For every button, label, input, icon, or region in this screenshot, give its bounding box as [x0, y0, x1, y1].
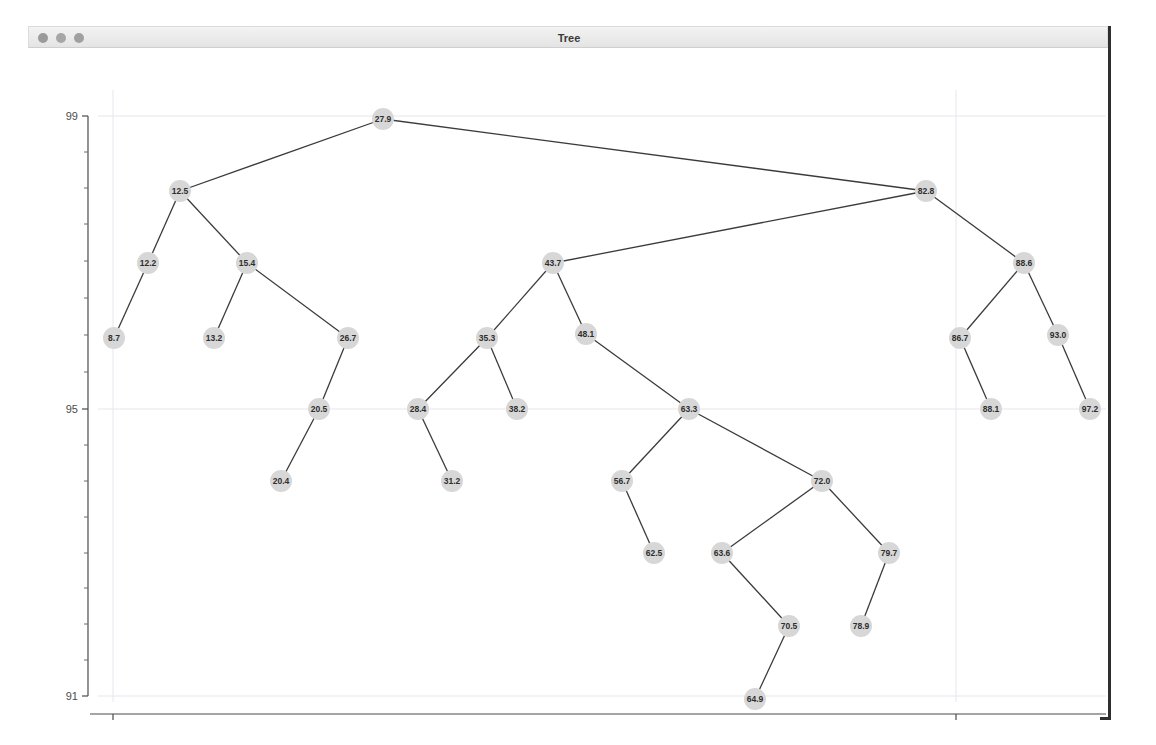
- tree-node[interactable]: 78.9: [850, 615, 872, 637]
- tree-edge: [180, 191, 247, 263]
- node-circle[interactable]: [337, 327, 359, 349]
- tree-node[interactable]: 93.0: [1047, 324, 1069, 346]
- node-circle[interactable]: [744, 688, 766, 710]
- tree-node[interactable]: 88.6: [1013, 252, 1035, 274]
- tree-node[interactable]: 35.3: [476, 327, 498, 349]
- axes: [82, 116, 1106, 720]
- tree-node[interactable]: 86.7: [949, 327, 971, 349]
- tree-edge: [622, 481, 654, 553]
- node-circle[interactable]: [236, 252, 258, 274]
- node-circle[interactable]: [1079, 398, 1101, 420]
- tree-node[interactable]: 28.4: [407, 398, 429, 420]
- tree-edge: [281, 409, 319, 481]
- tree-node[interactable]: 20.4: [270, 470, 292, 492]
- tree-edge: [822, 481, 889, 553]
- tree-node[interactable]: 56.7: [611, 470, 633, 492]
- tree-edge: [114, 263, 148, 338]
- window-border-foot: [1100, 717, 1111, 720]
- tree-node[interactable]: 15.4: [236, 252, 258, 274]
- tree-node[interactable]: 13.2: [203, 327, 225, 349]
- tree-edge: [418, 409, 452, 481]
- tree-node[interactable]: 43.7: [542, 252, 564, 274]
- tree-node[interactable]: 38.2: [506, 398, 528, 420]
- tree-node[interactable]: 62.5: [643, 542, 665, 564]
- tree-edge: [1058, 335, 1090, 409]
- tree-edge: [861, 553, 889, 626]
- node-circle[interactable]: [778, 615, 800, 637]
- tree-node[interactable]: 72.0: [811, 470, 833, 492]
- tree-canvas: 9995910.0025.00 27.912.582.812.215.443.7…: [28, 48, 1110, 720]
- tree-node[interactable]: 31.2: [441, 470, 463, 492]
- tree-node[interactable]: 8.7: [103, 327, 125, 349]
- tree-node[interactable]: 79.7: [878, 542, 900, 564]
- tree-node[interactable]: 70.5: [778, 615, 800, 637]
- tree-edge: [622, 409, 689, 481]
- node-circle[interactable]: [103, 327, 125, 349]
- node-circle[interactable]: [811, 470, 833, 492]
- tree-edge: [689, 409, 822, 481]
- node-circle[interactable]: [678, 398, 700, 420]
- tree-edge: [553, 263, 586, 334]
- tree-edge: [722, 553, 789, 626]
- node-circle[interactable]: [611, 470, 633, 492]
- node-circle[interactable]: [850, 615, 872, 637]
- node-circle[interactable]: [169, 180, 191, 202]
- node-circle[interactable]: [1013, 252, 1035, 274]
- node-circle[interactable]: [137, 252, 159, 274]
- tree-node[interactable]: 64.9: [744, 688, 766, 710]
- tree-node[interactable]: 82.8: [915, 180, 937, 202]
- node-circle[interactable]: [441, 470, 463, 492]
- tree-window: Tree 9995910.0025.00 27.912.582.812.215.…: [28, 26, 1110, 720]
- node-circle[interactable]: [643, 542, 665, 564]
- window-title: Tree: [29, 27, 1109, 49]
- tree-edge: [722, 481, 822, 553]
- tree-node[interactable]: 63.6: [711, 542, 733, 564]
- tree-edge: [553, 191, 926, 263]
- node-circle[interactable]: [949, 327, 971, 349]
- gridlines: [98, 90, 1106, 702]
- tree-node[interactable]: 20.5: [308, 398, 330, 420]
- node-circle[interactable]: [308, 398, 330, 420]
- node-circle[interactable]: [542, 252, 564, 274]
- node-circle[interactable]: [575, 323, 597, 345]
- tree-node[interactable]: 12.5: [169, 180, 191, 202]
- window-right-border: [1108, 26, 1111, 720]
- node-circle[interactable]: [711, 542, 733, 564]
- tree-edge: [1024, 263, 1058, 335]
- window-title-bar[interactable]: Tree: [28, 26, 1108, 48]
- tree-node[interactable]: 97.2: [1079, 398, 1101, 420]
- tree-edge: [487, 263, 553, 338]
- tree-node[interactable]: 27.9: [372, 108, 394, 130]
- node-circle[interactable]: [407, 398, 429, 420]
- tree-edge: [755, 626, 789, 699]
- tree-edge: [926, 191, 1024, 263]
- node-circle[interactable]: [506, 398, 528, 420]
- tree-edge: [383, 119, 926, 191]
- node-circle[interactable]: [980, 398, 1002, 420]
- tree-edge: [960, 263, 1024, 338]
- tree-edge: [319, 338, 348, 409]
- tree-node[interactable]: 63.3: [678, 398, 700, 420]
- node-circle[interactable]: [878, 542, 900, 564]
- y-axis-tick-label: 95: [66, 403, 78, 415]
- node-circle[interactable]: [372, 108, 394, 130]
- tree-node[interactable]: 48.1: [575, 323, 597, 345]
- tree-edge: [960, 338, 991, 409]
- node-circle[interactable]: [203, 327, 225, 349]
- tree-node[interactable]: 26.7: [337, 327, 359, 349]
- tree-plot[interactable]: 9995910.0025.00 27.912.582.812.215.443.7…: [28, 48, 1110, 720]
- tree-edge: [180, 119, 383, 191]
- node-circle[interactable]: [915, 180, 937, 202]
- node-circle[interactable]: [476, 327, 498, 349]
- tree-node[interactable]: 12.2: [137, 252, 159, 274]
- tree-edge: [148, 191, 180, 263]
- y-axis-tick-label: 91: [66, 690, 78, 702]
- tree-edge: [418, 338, 487, 409]
- node-circle[interactable]: [1047, 324, 1069, 346]
- tree-edge: [586, 334, 689, 409]
- tree-edge: [214, 263, 247, 338]
- tree-edge: [247, 263, 348, 338]
- tree-edge: [487, 338, 517, 409]
- node-circle[interactable]: [270, 470, 292, 492]
- tree-node[interactable]: 88.1: [980, 398, 1002, 420]
